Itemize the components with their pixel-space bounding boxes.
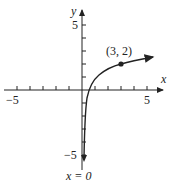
x-max-label: 5	[144, 93, 150, 107]
y-min-label: −5	[64, 148, 77, 162]
x-axis-label: x	[160, 72, 167, 86]
y-max-label: 5	[72, 18, 78, 32]
asymptote-label: x = 0	[65, 169, 91, 183]
x-axis	[4, 86, 163, 90]
x-min-label: −5	[6, 93, 19, 107]
point-label: (3, 2)	[106, 44, 132, 58]
point-marker	[118, 61, 123, 66]
y-axis-label: y	[70, 4, 77, 18]
log-curve	[84, 57, 153, 158]
graph: y x −5 5 5 −5 (3, 2) x = 0	[0, 0, 169, 186]
